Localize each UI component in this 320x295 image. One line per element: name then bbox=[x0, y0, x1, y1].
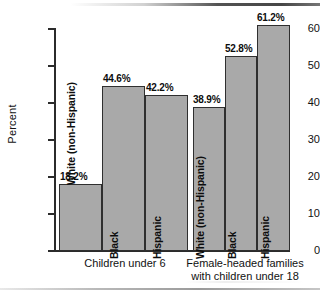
bar-children-under-6-white[interactable] bbox=[59, 184, 102, 251]
bar-value-children-under-6-hispanic: 42.2% bbox=[146, 83, 173, 93]
group-caption-female-headed: Female-headed families with children und… bbox=[175, 257, 315, 283]
y-tick-30 bbox=[48, 139, 54, 141]
bar-value-female-headed-black: 52.8% bbox=[225, 44, 252, 54]
series-label-children-under-6-hispanic: Hispanic bbox=[151, 216, 163, 259]
series-label-children-under-6-black: Black bbox=[108, 231, 120, 259]
y-tick-40 bbox=[48, 102, 54, 104]
y-tick-10 bbox=[48, 213, 54, 215]
series-label-female-headed-black: Black bbox=[226, 231, 238, 259]
y-tick-60 bbox=[48, 28, 54, 30]
y-tick-20 bbox=[48, 176, 54, 178]
y-axis-line bbox=[54, 28, 56, 252]
bar-value-female-headed-white: 38.9% bbox=[193, 95, 220, 105]
y-tick-50 bbox=[48, 65, 54, 67]
series-label-female-headed-hispanic: Hispanic bbox=[259, 216, 271, 259]
scan-artifact-bottom-rule bbox=[0, 288, 320, 290]
y-tick-0 bbox=[48, 250, 54, 252]
bar-chart: Percent 60 50 40 30 20 10 0 18.2% White … bbox=[0, 0, 320, 295]
bar-children-under-6-black[interactable] bbox=[102, 86, 145, 251]
scan-artifact-speckle bbox=[185, 281, 305, 283]
bar-value-children-under-6-black: 44.6% bbox=[103, 74, 130, 84]
y-axis-title: Percent bbox=[6, 94, 18, 154]
series-label-female-headed-white: White (non-Hispanic) bbox=[194, 156, 206, 259]
bar-value-female-headed-hispanic: 61.2% bbox=[257, 13, 284, 23]
group-caption-female-headed-line1: Female-headed families bbox=[175, 257, 315, 270]
series-label-children-under-6-white: White (non-Hispanic) bbox=[65, 82, 77, 185]
bar-female-headed-black[interactable] bbox=[225, 56, 257, 251]
